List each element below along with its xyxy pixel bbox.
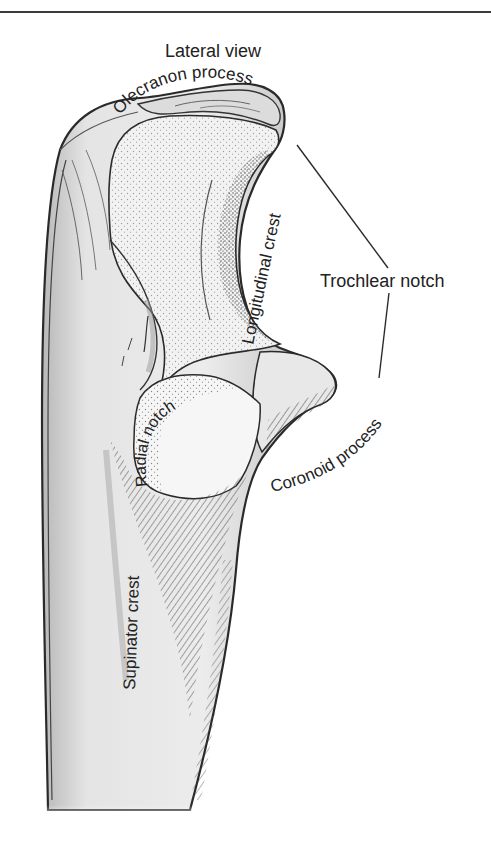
ulna-illustration: Lateral view Olecranon process Longitudi… <box>0 0 491 854</box>
label-trochlear-notch: Trochlear notch <box>320 271 444 291</box>
trochlear-leader-lower <box>379 293 389 378</box>
trochlear-leader-upper <box>297 145 388 268</box>
ulna-bone <box>40 84 336 820</box>
view-title: Lateral view <box>165 41 262 61</box>
label-supinator-crest: Supinator crest <box>120 575 143 690</box>
label-longitudinal-crest: Longitudinal crest <box>238 211 284 346</box>
